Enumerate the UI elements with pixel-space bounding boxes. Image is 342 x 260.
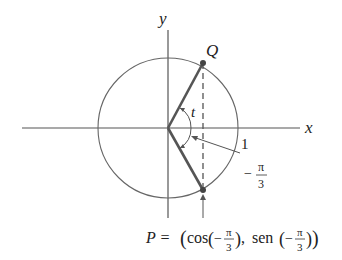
- neg-sign: −: [244, 166, 252, 181]
- radius-to-Q: [168, 63, 203, 128]
- formula-sen-num: π: [297, 226, 303, 238]
- formula-sen: sen: [252, 229, 273, 246]
- formula-sen-den: 3: [297, 241, 303, 253]
- angle-arc-t: [180, 108, 191, 128]
- pointer-arrow-line: [193, 137, 240, 153]
- y-axis-label: y: [157, 9, 167, 28]
- point-P-label: P =: [145, 229, 170, 246]
- unit-circle-diagram: y x Q t 1 − π 3 P = ( cos ( − π 3 ) , se…: [0, 0, 342, 260]
- formula-cos-num: π: [226, 226, 232, 238]
- tick-one-label: 1: [241, 136, 249, 152]
- radius-to-P: [168, 128, 203, 190]
- x-axis-label: x: [304, 118, 313, 137]
- point-Q-label: Q: [206, 41, 218, 60]
- formula-cos-neg: −: [214, 231, 222, 246]
- formula-close-paren: ): [312, 227, 319, 250]
- angle-arc-neg: [180, 128, 191, 148]
- point-P: [200, 187, 206, 193]
- formula-sen-neg: −: [285, 231, 293, 246]
- fraction-denominator: 3: [258, 177, 264, 191]
- point-Q: [200, 60, 206, 66]
- pointer-arrowhead: [191, 136, 198, 141]
- formula-comma: ,: [241, 229, 245, 246]
- fraction-numerator: π: [258, 160, 264, 174]
- pointer-to-P-arrowhead: [200, 194, 206, 200]
- formula-cos-den: 3: [226, 241, 232, 253]
- formula-open-paren: (: [180, 227, 187, 250]
- formula-cos: cos: [187, 229, 208, 246]
- angle-t-label: t: [191, 104, 196, 120]
